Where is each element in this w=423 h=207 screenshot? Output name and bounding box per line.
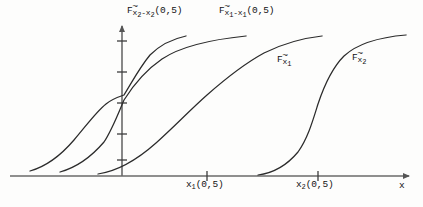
curve-f-x2tilde-minus-x2 <box>30 36 186 171</box>
figure-container: Fx2-x2(0,5) Fx1-x1(0,5) Fx1 Fx2 x1(0,5) … <box>0 0 423 207</box>
x-axis-label: x <box>399 181 405 191</box>
curve-label-f-x1tilde-minus-x1: Fx1-x1(0,5) <box>219 6 274 20</box>
curve-f-x1tilde-minus-x1 <box>60 36 246 172</box>
plot-canvas <box>0 0 423 207</box>
x-tick-label-2: x2(0,5) <box>296 180 334 191</box>
x-tick-label-1: x1(0,5) <box>186 180 224 191</box>
curve-label-f-x2tilde-minus-x2: Fx2-x2(0,5) <box>127 6 182 20</box>
curve-label-f-x2tilde: Fx2 <box>352 53 366 67</box>
curve-label-f-x1tilde: Fx1 <box>277 55 291 69</box>
